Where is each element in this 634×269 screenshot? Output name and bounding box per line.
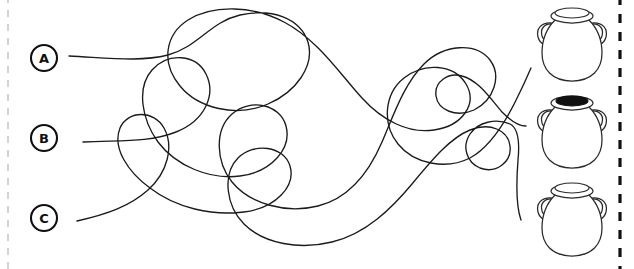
vase-bottom-opening [555,183,589,193]
vase-top-body [542,20,602,81]
label-c-letter: C [39,211,49,226]
tangled-line-c[interactable] [77,115,521,246]
label-b[interactable]: B [31,125,57,151]
label-b-letter: B [39,131,49,146]
tangled-lines-group [69,9,531,245]
label-a[interactable]: A [31,45,57,71]
vase-bottom[interactable] [538,183,607,256]
tangled-line-a[interactable] [69,9,531,164]
label-a-letter: A [39,51,49,66]
vase-top-opening [555,8,589,18]
vase-middle[interactable] [538,96,607,168]
vase-middle-opening [556,96,588,106]
vase-middle-body [542,107,602,168]
label-c[interactable]: C [31,205,57,231]
puzzle-page: A B C [0,0,634,269]
puzzle-canvas: A B C [0,0,634,269]
vase-top[interactable] [538,8,607,81]
vase-bottom-body [542,195,602,256]
